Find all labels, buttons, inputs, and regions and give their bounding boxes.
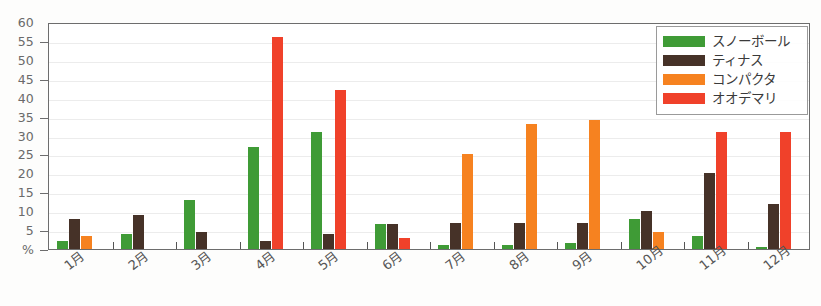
y-tick-mark — [40, 42, 48, 43]
bar — [335, 90, 346, 249]
y-tick-label: 30 — [18, 130, 34, 143]
bar — [641, 211, 652, 249]
bar — [81, 236, 92, 249]
bar — [311, 132, 322, 249]
bar — [577, 223, 588, 249]
bar — [323, 234, 334, 249]
x-tick-label: 6月 — [380, 249, 405, 272]
y-tick-mark — [40, 193, 48, 194]
bar — [450, 223, 461, 249]
bar — [692, 236, 703, 249]
y-tick-label: 20 — [18, 168, 34, 181]
bar — [184, 200, 195, 249]
legend-item: ティナス — [663, 51, 801, 70]
x-tick-label: 5月 — [316, 249, 341, 272]
y-tick-mark — [40, 118, 48, 119]
bar — [704, 173, 715, 249]
x-tick-label: 4月 — [253, 249, 278, 272]
bar — [248, 147, 259, 249]
bar — [514, 223, 525, 249]
legend-color-swatch — [663, 55, 705, 66]
legend-item: オオデマリ — [663, 89, 801, 108]
bar — [69, 219, 80, 249]
x-group-tick — [494, 242, 495, 249]
y-tick-label: 50 — [18, 55, 34, 68]
y-tick-label: 35 — [18, 111, 34, 124]
x-group-tick — [367, 242, 368, 249]
bar — [502, 245, 513, 249]
x-group-tick — [113, 242, 114, 249]
x-tick-label: 9月 — [570, 249, 595, 272]
bar — [133, 215, 144, 249]
legend-color-swatch — [663, 93, 705, 104]
legend-item: スノーボール — [663, 32, 801, 51]
y-tick-label: 45 — [18, 74, 34, 87]
x-group-tick — [748, 242, 749, 249]
x-tick-label: 2月 — [126, 249, 151, 272]
bar — [629, 219, 640, 249]
bar — [196, 232, 207, 249]
y-tick-label: 10 — [18, 206, 34, 219]
bar — [589, 120, 600, 249]
bar — [716, 132, 727, 249]
bar — [272, 37, 283, 249]
bar — [121, 234, 132, 249]
y-tick-label: 40 — [18, 92, 34, 105]
x-tick-label: 3月 — [189, 249, 214, 272]
x-group-tick — [176, 242, 177, 249]
x-tick-label: 1月 — [62, 249, 87, 272]
y-tick-mark — [40, 80, 48, 81]
y-tick-label: 5 — [26, 225, 34, 238]
bar — [375, 224, 386, 249]
bar — [768, 204, 779, 249]
y-tick-label: 55 — [18, 36, 34, 49]
x-tick-label: 7月 — [443, 249, 468, 272]
y-tick-label: 15 — [18, 187, 34, 200]
legend-item: コンパクタ — [663, 70, 801, 89]
chart-legend: スノーボールティナスコンパクタオオデマリ — [656, 26, 808, 115]
x-group-tick — [621, 242, 622, 249]
bar — [438, 245, 449, 249]
legend-item-label: スノーボール — [712, 35, 790, 49]
y-tick-label: 60 — [18, 17, 34, 30]
legend-item-label: コンパクタ — [712, 73, 776, 87]
x-tick-label: 8月 — [507, 249, 532, 272]
bar-chart: 60555045403530252015105% 1月2月3月4月5月6月7月8… — [0, 0, 821, 306]
bar — [526, 124, 537, 249]
x-group-tick — [240, 242, 241, 249]
bar — [780, 132, 791, 249]
x-group-tick — [303, 242, 304, 249]
bar — [387, 224, 398, 249]
x-group-tick — [430, 242, 431, 249]
bar — [57, 241, 68, 249]
x-axis: 1月2月3月4月5月6月7月8月9月10月11月12月 — [0, 250, 821, 306]
x-group-tick — [684, 242, 685, 249]
bar — [756, 247, 767, 249]
legend-item-label: ティナス — [712, 54, 763, 68]
y-tick-mark — [40, 231, 48, 232]
y-tick-mark — [40, 155, 48, 156]
bar — [462, 154, 473, 249]
bar — [399, 238, 410, 249]
y-tick-label: 25 — [18, 149, 34, 162]
legend-item-label: オオデマリ — [712, 92, 777, 106]
bar — [565, 243, 576, 249]
x-group-tick — [557, 242, 558, 249]
legend-color-swatch — [663, 36, 705, 47]
legend-color-swatch — [663, 74, 705, 85]
